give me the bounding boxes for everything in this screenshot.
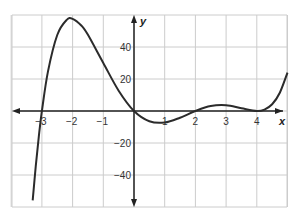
y-tick-label: 40: [120, 42, 132, 53]
x-tick-label: 4: [254, 116, 260, 127]
function-graph: −3−2−11234−40−202040 x y: [0, 0, 293, 215]
y-tick-label: −40: [114, 170, 131, 181]
x-axis-left-arrow-icon: [12, 108, 20, 114]
function-curve: [33, 18, 288, 200]
x-tick-label: 2: [193, 116, 199, 127]
y-tick-label: 20: [120, 74, 132, 85]
axes: [12, 15, 283, 207]
x-axis-label: x: [278, 115, 286, 127]
x-tick-label: −2: [66, 116, 78, 127]
x-axis-right-arrow-icon: [275, 108, 283, 114]
y-tick-label: −20: [114, 138, 131, 149]
y-axis-label: y: [139, 15, 147, 27]
x-tick-label: −1: [97, 116, 109, 127]
y-axis-up-arrow-icon: [131, 15, 137, 23]
y-axis-down-arrow-icon: [131, 199, 137, 207]
x-tick-label: 3: [223, 116, 229, 127]
